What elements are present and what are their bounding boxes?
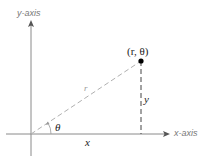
point-marker [138, 58, 143, 63]
angle-label: θ [55, 122, 60, 133]
y-axis-suffix: -axis [22, 8, 41, 18]
x-axis-label: x-axis [174, 129, 198, 138]
horizontal-leg-label: x [85, 137, 90, 148]
polar-coordinates-diagram: y-axis x-axis (r, θ) r θ x y [0, 0, 208, 160]
vertical-leg-label: y [144, 94, 149, 105]
angle-arc [48, 123, 51, 134]
y-axis-label: y-axis [17, 9, 41, 18]
x-axis-suffix: -axis [179, 128, 198, 138]
point-label: (r, θ) [127, 46, 148, 57]
radius-label: r [84, 84, 88, 93]
